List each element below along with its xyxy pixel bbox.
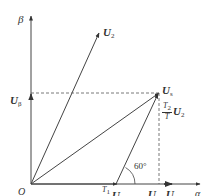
t2-u2-label: T2 T U2 (162, 102, 184, 121)
beta-axis-label: β (18, 14, 23, 25)
u1-label: U1 (166, 189, 177, 196)
us-label: Us (162, 85, 173, 98)
t1-fraction: T1 T (101, 186, 111, 196)
u-beta-label: Uβ (10, 95, 22, 108)
origin-label: O (18, 187, 25, 196)
u2-vector (31, 33, 99, 184)
u2-label: U2 (103, 27, 114, 40)
u-alpha-label: Uα (148, 189, 160, 196)
t1-u1-label: T1 T U1 (101, 186, 123, 196)
alpha-axis-label: α (195, 189, 200, 196)
t2-fraction: T2 T (162, 102, 172, 121)
angle-label: 60° (134, 162, 147, 171)
